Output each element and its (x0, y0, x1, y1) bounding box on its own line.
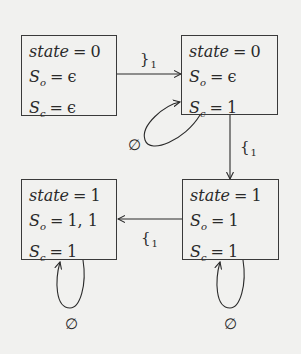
state-line: state=1 (190, 183, 278, 208)
state-diagram: state=0 So=ϵ Sc=ϵ state=0 So=ϵ Sc=1 stat… (0, 0, 301, 354)
state-box-top-left: state=0 So=ϵ Sc=ϵ (21, 35, 117, 116)
loop-label-bottom-left: ∅ (65, 315, 78, 333)
edge-label-tr-to-br: {1 (240, 138, 257, 158)
so-line: So=1, 1 (29, 208, 116, 239)
loop-label-bottom-right: ∅ (224, 315, 237, 333)
state-box-bottom-left: state=1 So=1, 1 Sc=1 (21, 179, 117, 260)
state-box-top-right: state=0 So=ϵ Sc=1 (181, 35, 278, 115)
loop-label-top-right: ∅ (128, 136, 141, 154)
so-line: So=ϵ (189, 64, 277, 95)
sc-line: Sc=ϵ (29, 95, 116, 126)
so-line: So=1 (190, 208, 278, 239)
state-line: state=0 (29, 39, 116, 64)
so-line: So=ϵ (29, 64, 116, 95)
state-line: state=0 (189, 39, 277, 64)
edge-label-br-to-bl: {1 (141, 229, 158, 249)
state-line: state=1 (29, 183, 116, 208)
sc-line: Sc=1 (29, 239, 116, 270)
edge-label-tl-to-tr: }1 (140, 50, 157, 70)
sc-line: Sc=1 (190, 239, 278, 270)
sc-line: Sc=1 (189, 95, 277, 126)
state-box-bottom-right: state=1 So=1 Sc=1 (182, 179, 279, 260)
